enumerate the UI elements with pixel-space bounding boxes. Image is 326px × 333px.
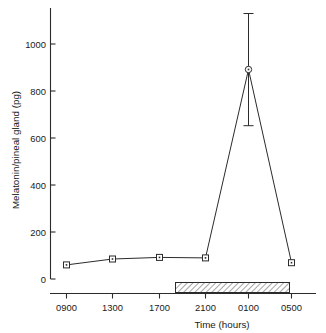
dark-period-bar [176, 283, 290, 293]
y-tick-label-400: 400 [30, 180, 46, 191]
y-axis-ticks [51, 44, 56, 279]
x-tick-label-0900: 0900 [56, 302, 77, 313]
x-tick-label-0100: 0100 [238, 302, 259, 313]
y-axis-tick-labels: 1000 800 600 400 200 0 [25, 39, 46, 285]
x-axis-ticks [67, 294, 292, 299]
data-point-1700 [157, 254, 163, 260]
x-axis-tick-labels: 0900 1300 1700 2100 0100 0500 [56, 302, 302, 313]
x-tick-label-1300: 1300 [102, 302, 123, 313]
data-point-0100 [245, 66, 251, 72]
data-point-1300 [110, 256, 116, 262]
series-line-melatonin [67, 70, 292, 265]
y-axis-title: Melatonin/pineal gland (pg) [10, 91, 21, 209]
x-tick-label-1700: 1700 [149, 302, 170, 313]
melatonin-time-course-chart: 1000 800 600 400 200 0 Melatonin/pineal … [0, 0, 326, 333]
x-tick-label-2100: 2100 [195, 302, 216, 313]
x-tick-label-0500: 0500 [281, 302, 302, 313]
data-point-markers [64, 66, 295, 268]
data-point-2100 [203, 255, 209, 261]
data-point-0500 [289, 260, 295, 266]
y-tick-label-200: 200 [30, 227, 46, 238]
chart-plot-area: 1000 800 600 400 200 0 Melatonin/pineal … [0, 0, 326, 333]
y-tick-label-800: 800 [30, 86, 46, 97]
y-tick-label-1000: 1000 [25, 39, 46, 50]
data-point-0900 [64, 262, 70, 268]
x-axis-title: Time (hours) [194, 319, 249, 330]
y-tick-label-0: 0 [41, 274, 46, 285]
y-tick-label-600: 600 [30, 133, 46, 144]
